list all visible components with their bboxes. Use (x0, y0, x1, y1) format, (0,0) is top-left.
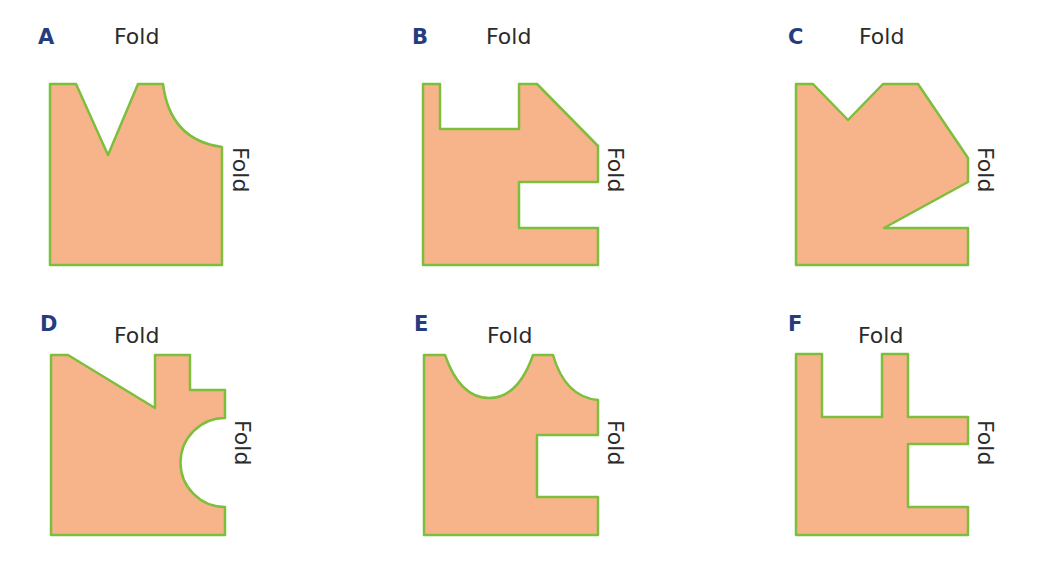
fold-shapes-diagram: A Fold Fold B Fold Fold C Fold Fold D Fo… (0, 0, 1038, 562)
panel-d: D Fold Fold (40, 312, 255, 535)
shape-b (423, 84, 598, 265)
top-fold-label: Fold (487, 323, 532, 348)
panel-a: A Fold Fold (38, 24, 253, 265)
side-fold-label: Fold (973, 420, 998, 465)
top-fold-label: Fold (486, 24, 531, 49)
panel-letter: D (40, 312, 57, 336)
side-fold-label: Fold (230, 420, 255, 465)
panel-letter: C (788, 25, 803, 49)
panel-letter: E (414, 312, 428, 336)
panel-c: C Fold Fold (788, 24, 998, 265)
shape-d (51, 355, 225, 535)
panel-b: B Fold Fold (412, 24, 628, 265)
side-fold-label: Fold (973, 147, 998, 192)
panel-letter: B (412, 25, 428, 49)
top-fold-label: Fold (114, 24, 159, 49)
side-fold-label: Fold (228, 147, 253, 192)
shape-f (796, 354, 968, 535)
panel-e: E Fold Fold (414, 312, 628, 535)
shape-a (50, 84, 222, 265)
side-fold-label: Fold (603, 420, 628, 465)
panel-letter: F (788, 312, 802, 336)
top-fold-label: Fold (859, 24, 904, 49)
shape-c (796, 84, 968, 265)
panel-f: F Fold Fold (788, 312, 998, 535)
top-fold-label: Fold (114, 323, 159, 348)
shape-e (424, 355, 598, 535)
side-fold-label: Fold (603, 147, 628, 192)
top-fold-label: Fold (858, 323, 903, 348)
panel-letter: A (38, 25, 55, 49)
